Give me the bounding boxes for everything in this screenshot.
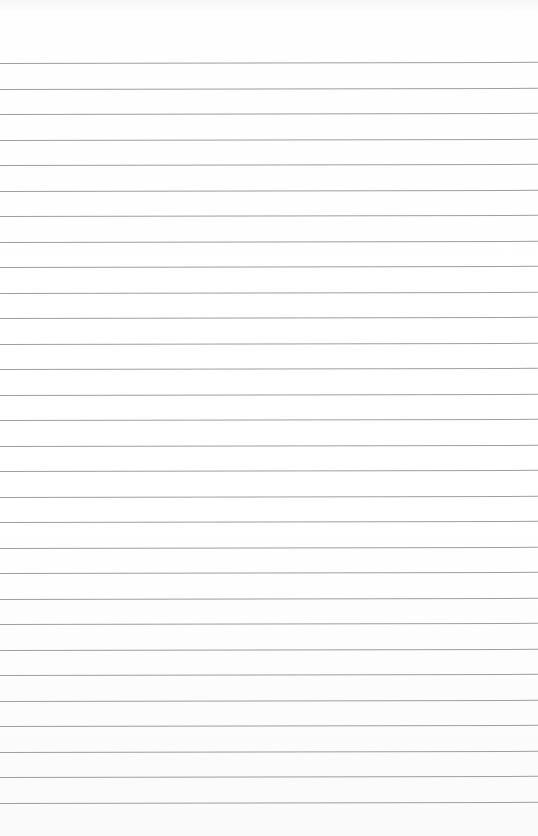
ruled-line <box>0 546 538 548</box>
ruled-line <box>0 801 538 803</box>
ruled-line <box>0 776 538 778</box>
ruled-line <box>0 725 538 727</box>
ruled-line <box>0 521 538 523</box>
ruled-line <box>0 342 538 344</box>
ruled-line <box>0 189 538 191</box>
ruled-line <box>0 648 538 650</box>
ruled-line <box>0 317 538 319</box>
ruled-line <box>0 291 538 293</box>
ruled-line <box>0 164 538 166</box>
ruled-line <box>0 393 538 395</box>
ruled-line <box>0 470 538 472</box>
ruled-line <box>0 113 538 115</box>
ruled-line <box>0 266 538 268</box>
ruled-line <box>0 215 538 217</box>
ruled-line <box>0 597 538 599</box>
ruled-line <box>0 419 538 421</box>
lined-paper-sheet <box>0 0 538 836</box>
ruled-line <box>0 444 538 446</box>
ruled-line <box>0 623 538 625</box>
ruled-line <box>0 62 538 64</box>
ruled-line <box>0 368 538 370</box>
ruled-line <box>0 240 538 242</box>
ruled-line <box>0 138 538 140</box>
ruled-line <box>0 87 538 89</box>
ruled-line <box>0 750 538 752</box>
ruled-line <box>0 674 538 676</box>
ruled-line <box>0 495 538 497</box>
ruled-line <box>0 699 538 701</box>
ruled-line <box>0 572 538 574</box>
